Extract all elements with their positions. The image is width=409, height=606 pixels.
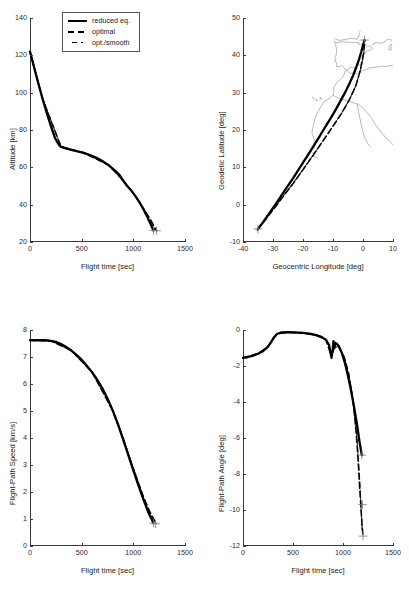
y-tickmark	[30, 130, 33, 131]
x-tick-label: 0	[348, 245, 378, 252]
y-tickmark	[30, 465, 33, 466]
x-tick-label: 1000	[118, 549, 148, 556]
y-tickmark	[243, 205, 246, 206]
x-tick-label: 1500	[170, 549, 200, 556]
x-tick-label: -10	[318, 245, 348, 252]
y-tickmark	[30, 411, 33, 412]
y-tickmark	[30, 492, 33, 493]
x-tickmark	[393, 543, 394, 546]
y-tickmark	[30, 438, 33, 439]
legend-swatch-dashdot	[65, 38, 89, 48]
x-tick-label: 500	[67, 549, 97, 556]
y-tickmark	[243, 402, 246, 403]
y-tick-label: 100	[6, 89, 27, 96]
x-tickmark	[82, 239, 83, 242]
figure-canvas: Altitude [km] Flight time [sec] reduced …	[0, 0, 409, 606]
speed-curves	[0, 300, 205, 606]
y-tickmark	[30, 205, 33, 206]
y-tickmark	[30, 330, 33, 331]
y-tick-label: 1	[6, 515, 27, 522]
y-tick-label: 140	[6, 14, 27, 21]
y-tick-label: 50	[219, 14, 240, 21]
legend-swatch-solid	[65, 16, 89, 26]
panel-speed: Flight-Path Speed [km/s] Flight time [se…	[0, 300, 205, 606]
x-tick-label: 500	[67, 245, 97, 252]
x-tick-label: 1500	[378, 549, 408, 556]
panel-ground-track: Geodetic Latitude [deg] Geocentric Longi…	[205, 0, 409, 300]
x-tickmark	[393, 239, 394, 242]
y-tickmark	[243, 167, 246, 168]
legend-label-opt-smooth: opt./smooth	[89, 38, 130, 47]
y-tickmark	[30, 93, 33, 94]
y-tick-label: -10	[219, 506, 240, 513]
x-tickmark	[333, 239, 334, 242]
ground-track-curves	[205, 0, 409, 300]
y-tickmark	[243, 546, 246, 547]
x-tick-label: 500	[278, 549, 308, 556]
y-tick-label: 4	[6, 434, 27, 441]
y-tick-label: 40	[6, 201, 27, 208]
y-tick-label: -8	[219, 470, 240, 477]
axis-label-x-altitude: Flight time [sec]	[30, 262, 185, 271]
y-tickmark	[30, 167, 33, 168]
y-tickmark	[243, 18, 246, 19]
y-tick-label: 7	[6, 353, 27, 360]
y-tick-label: 60	[6, 163, 27, 170]
x-tick-label: 0	[15, 549, 45, 556]
y-tickmark	[30, 242, 33, 243]
y-tick-label: 20	[219, 126, 240, 133]
y-tick-label: 5	[6, 407, 27, 414]
x-tickmark	[303, 239, 304, 242]
x-tickmark	[243, 239, 244, 242]
y-tick-label: 2	[6, 488, 27, 495]
y-tick-label: 30	[219, 89, 240, 96]
x-tick-label: 0	[228, 549, 258, 556]
y-tick-label: -4	[219, 398, 240, 405]
legend-swatch-dashed	[65, 27, 89, 37]
axis-label-y-latitude: Geodetic Latitude [deg]	[217, 111, 226, 190]
y-tick-label: -2	[219, 362, 240, 369]
x-tickmark	[343, 543, 344, 546]
y-tick-label: 80	[6, 126, 27, 133]
y-tick-label: 40	[219, 51, 240, 58]
x-tickmark	[293, 543, 294, 546]
x-tick-label: -40	[228, 245, 258, 252]
y-tick-label: -6	[219, 434, 240, 441]
x-tickmark	[133, 239, 134, 242]
y-tickmark	[30, 519, 33, 520]
x-tick-label: 1500	[170, 245, 200, 252]
y-tick-label: 6	[6, 380, 27, 387]
y-tickmark	[30, 546, 33, 547]
legend-label-optimal: optimal	[89, 27, 115, 36]
x-tickmark	[273, 239, 274, 242]
y-tickmark	[243, 366, 246, 367]
x-tick-label: 0	[15, 245, 45, 252]
x-tick-label: 1000	[328, 549, 358, 556]
y-tick-label: 120	[6, 51, 27, 58]
y-tickmark	[30, 18, 33, 19]
x-tick-label: -20	[288, 245, 318, 252]
x-tickmark	[185, 543, 186, 546]
y-tick-label: 10	[219, 163, 240, 170]
y-tick-label: 3	[6, 461, 27, 468]
legend-box: reduced eq. optimal opt./smooth	[62, 12, 140, 52]
x-tickmark	[30, 543, 31, 546]
y-tick-label: 0	[219, 201, 240, 208]
y-tickmark	[243, 438, 246, 439]
legend-label-reduced-eq: reduced eq.	[89, 16, 130, 25]
y-tickmark	[30, 357, 33, 358]
y-tickmark	[243, 510, 246, 511]
x-tickmark	[82, 543, 83, 546]
x-tickmark	[30, 239, 31, 242]
x-tickmark	[243, 543, 244, 546]
y-tickmark	[243, 55, 246, 56]
panel-altitude: Altitude [km] Flight time [sec] reduced …	[0, 0, 205, 300]
x-tick-label: 1000	[118, 245, 148, 252]
y-tickmark	[243, 330, 246, 331]
x-tickmark	[185, 239, 186, 242]
x-tick-label: -30	[258, 245, 288, 252]
y-tickmark	[243, 474, 246, 475]
x-tickmark	[363, 239, 364, 242]
x-tickmark	[133, 543, 134, 546]
x-tick-label: 10	[378, 245, 408, 252]
